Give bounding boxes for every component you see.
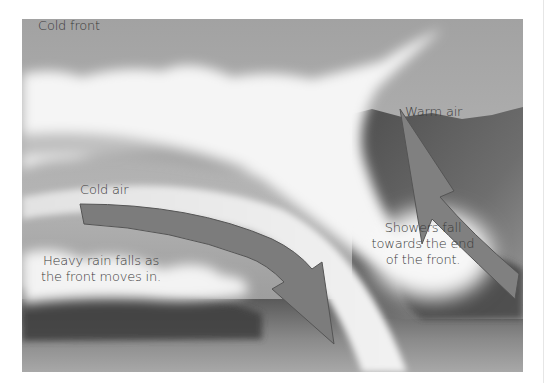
showers-line-2: towards the end (368, 236, 478, 252)
showers-line-1: Showers fall (368, 220, 478, 236)
showers-line-3: of the front. (368, 252, 478, 268)
heavy-rain-line-1: Heavy rain falls as (36, 253, 166, 269)
page-edge-line (543, 0, 544, 383)
label-showers: Showers fall towards the end of the fron… (368, 220, 478, 268)
cold-front-diagram: Cold front Warm air Cold air Heavy rain … (22, 19, 523, 372)
heavy-rain-line-2: the front moves in. (36, 269, 166, 285)
label-heavy-rain: Heavy rain falls as the front moves in. (36, 253, 166, 285)
label-cold-front: Cold front (38, 19, 100, 34)
label-warm-air: Warm air (405, 104, 462, 120)
label-cold-air: Cold air (80, 182, 128, 198)
